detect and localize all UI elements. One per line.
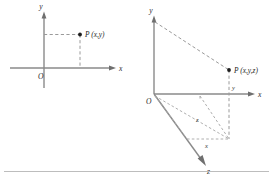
guide-ytop-to-p — [155, 22, 229, 70]
origin-label-3d: O — [146, 97, 152, 106]
panel-plane-2d: y x O P (x,y) — [10, 2, 123, 88]
x-axis-3d — [154, 92, 255, 97]
point-p-2d — [78, 33, 82, 37]
segment-label-y: y — [231, 84, 235, 91]
x-axis-label-3d: x — [257, 90, 262, 99]
point-p-3d — [227, 68, 231, 72]
point-label-2d: P (x,y) — [84, 30, 105, 39]
footer-divider — [4, 171, 269, 172]
coordinate-systems-figure: y x O P (x,y) — [0, 0, 273, 181]
y-axis-label-2d: y — [38, 2, 43, 11]
y-axis-3d — [152, 16, 157, 95]
guide-xfoot-to-foot — [200, 96, 229, 139]
x-axis-2d — [10, 66, 116, 71]
guide-origin-to-foot — [155, 96, 229, 139]
segment-label-x: x — [204, 142, 208, 149]
y-axis-label-3d: y — [148, 6, 153, 15]
origin-label-2d: O — [38, 72, 44, 81]
point-label-3d: P (x,y,z) — [233, 66, 258, 75]
segment-label-z: z — [195, 116, 199, 123]
panel-space-3d: y x z O P (x,y,z) y z x — [146, 6, 262, 176]
x-axis-label-2d: x — [118, 64, 123, 73]
